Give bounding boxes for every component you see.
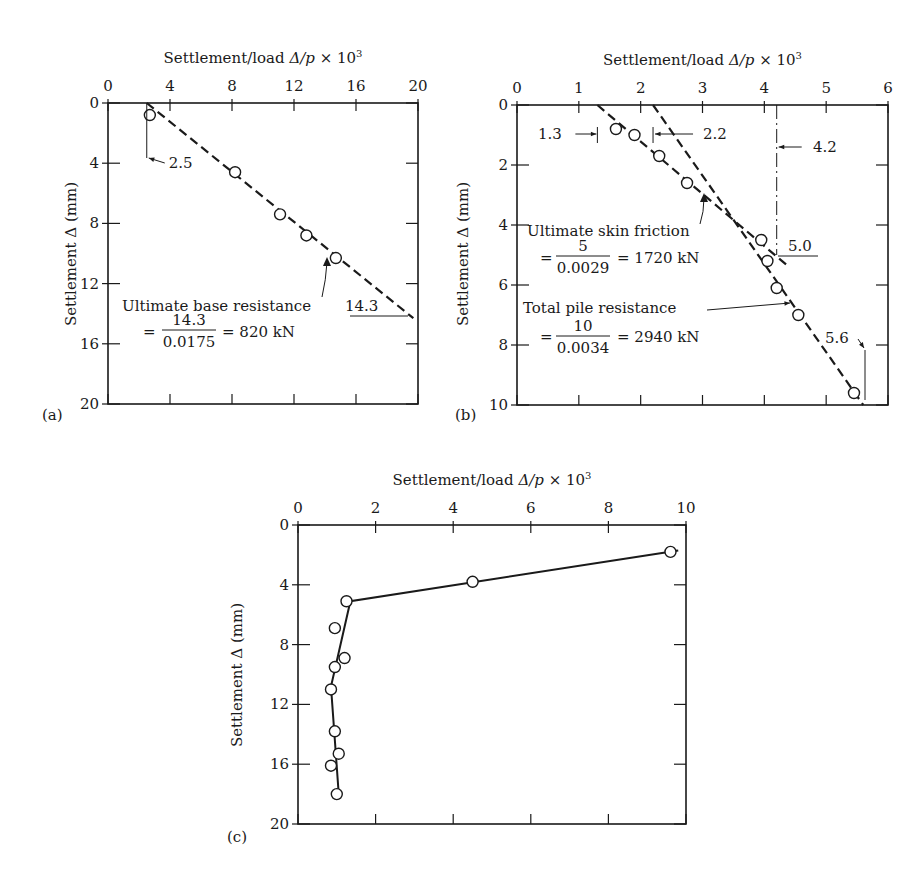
- data-point: [325, 760, 336, 771]
- x-axis-title: Settlement/load Δ/p × 103: [393, 470, 592, 489]
- data-point: [331, 789, 342, 800]
- y-tick-label: 20: [270, 815, 289, 833]
- y-tick-label: 4: [498, 216, 508, 234]
- x-tick-label: 0: [512, 79, 522, 97]
- y-tick-label: 20: [80, 395, 99, 413]
- data-point: [230, 167, 241, 178]
- y-tick-label: 6: [498, 276, 508, 294]
- svg-text:10: 10: [573, 317, 592, 335]
- y-tick-label: 16: [270, 755, 289, 773]
- data-point: [629, 130, 640, 141]
- y-tick-label: 8: [89, 214, 99, 232]
- panel-label: (c): [227, 828, 247, 846]
- x-tick-label: 2: [371, 499, 381, 517]
- y-tick-label: 4: [279, 576, 289, 594]
- intercept-label-1: 1.3: [538, 125, 562, 143]
- data-point: [333, 748, 344, 759]
- data-point: [329, 726, 340, 737]
- svg-text:= 2940 kN: = 2940 kN: [617, 328, 700, 346]
- x-tick-label: 6: [883, 79, 893, 97]
- x-tick-label: 3: [698, 79, 708, 97]
- y-tick-label: 0: [498, 96, 508, 114]
- y-tick-label: 12: [80, 275, 99, 293]
- svg-text:5: 5: [578, 237, 588, 255]
- x-tick-label: 0: [103, 77, 113, 95]
- x-tick-label: 10: [676, 499, 695, 517]
- intercept-label-3: 4.2: [813, 138, 837, 156]
- y-axis-title: Settlement Δ (mm): [228, 603, 246, 747]
- plot-frame: [298, 525, 686, 824]
- data-point: [610, 124, 621, 135]
- y-tick-label: 16: [80, 335, 99, 353]
- y-tick-label: 8: [279, 636, 289, 654]
- intercept-label: 2.5: [169, 154, 193, 172]
- chart-panel-a: 048121620048121620Settlement/load Δ/p × …: [42, 48, 428, 424]
- fit-line: [331, 550, 678, 794]
- data-point: [762, 256, 773, 267]
- x-axis-title: Settlement/load Δ/p × 103: [164, 48, 363, 67]
- svg-text:0.0175: 0.0175: [163, 333, 216, 351]
- y-tick-label: 0: [279, 516, 289, 534]
- svg-text:= 820 kN: = 820 kN: [222, 323, 295, 341]
- svg-text:0.0034: 0.0034: [557, 339, 610, 357]
- y-tick-label: 8: [498, 336, 508, 354]
- x-tick-label: 8: [604, 499, 614, 517]
- y-tick-label: 2: [498, 156, 508, 174]
- svg-text:= 1720 kN: = 1720 kN: [617, 249, 700, 267]
- data-point: [330, 253, 341, 264]
- x-tick-label: 4: [448, 499, 458, 517]
- x-tick-label: 8: [227, 77, 237, 95]
- data-point: [325, 684, 336, 695]
- x-tick-label: 1: [574, 79, 584, 97]
- x-tick-label: 4: [760, 79, 770, 97]
- chart-panel-c: 0246810048121620Settlement/load Δ/p × 10…: [227, 470, 696, 846]
- data-point: [665, 546, 676, 557]
- data-point: [654, 151, 665, 162]
- y-tick-label: 12: [270, 695, 289, 713]
- svg-text:=: =: [540, 328, 553, 346]
- data-point: [339, 653, 350, 664]
- panel-label: (b): [455, 406, 476, 424]
- data-point: [848, 388, 859, 399]
- annotation-skin-friction: Ultimate skin friction: [527, 222, 690, 240]
- data-point: [329, 662, 340, 673]
- x-tick-label: 16: [346, 77, 365, 95]
- data-point: [756, 235, 767, 246]
- plot-frame: [108, 103, 418, 404]
- data-point: [329, 623, 340, 634]
- panel-label: (a): [42, 406, 63, 424]
- svg-text:14.3: 14.3: [172, 311, 205, 329]
- svg-text:=: =: [143, 323, 156, 341]
- x-tick-label: 12: [284, 77, 303, 95]
- svg-text:0.0029: 0.0029: [557, 259, 610, 277]
- svg-text:=: =: [540, 249, 553, 267]
- x-tick-label: 2: [636, 79, 646, 97]
- data-point: [301, 230, 312, 241]
- annotation-value: 14.3: [345, 297, 378, 315]
- annotation-total-resistance: Total pile resistance: [523, 299, 677, 317]
- x-tick-label: 20: [408, 77, 427, 95]
- intercept-label-2: 2.2: [703, 125, 727, 143]
- data-point: [144, 110, 155, 121]
- figure-canvas: 048121620048121620Settlement/load Δ/p × …: [0, 0, 924, 892]
- y-tick-label: 10: [489, 396, 508, 414]
- value-label-2: 5.6: [825, 329, 849, 347]
- x-tick-label: 4: [165, 77, 175, 95]
- data-point: [682, 178, 693, 189]
- x-tick-label: 5: [821, 79, 831, 97]
- y-axis-title: Settlement Δ (mm): [454, 182, 472, 326]
- data-point: [341, 596, 352, 607]
- value-label-1: 5.0: [788, 237, 812, 255]
- x-tick-label: 6: [526, 499, 536, 517]
- annotation-base-resistance: Ultimate base resistance: [122, 297, 311, 315]
- data-point: [275, 209, 286, 220]
- chart-panel-b: 01234560246810Settlement/load Δ/p × 103S…: [454, 50, 893, 424]
- x-axis-title: Settlement/load Δ/p × 103: [603, 50, 802, 69]
- data-point: [793, 310, 804, 321]
- y-axis-title: Settlement Δ (mm): [62, 182, 80, 326]
- data-point: [771, 283, 782, 294]
- y-tick-label: 0: [89, 94, 99, 112]
- x-tick-label: 0: [293, 499, 303, 517]
- y-tick-label: 4: [89, 154, 99, 172]
- data-point: [467, 576, 478, 587]
